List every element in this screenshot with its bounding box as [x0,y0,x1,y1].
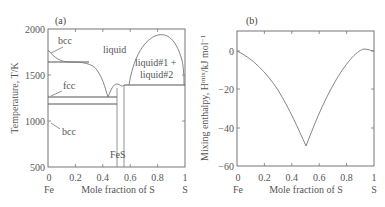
arrow-bcc-bottom [51,123,60,129]
x-tick-label: 0.4 [97,172,110,183]
x-tick-label: 1 [183,172,188,183]
y-tick-label: −60 [218,161,234,172]
x-tick-label: 0.2 [258,172,271,183]
y-tick-label: 1000 [25,116,45,127]
x-tick-label: 0 [236,172,241,183]
x-tick-label: 0.8 [340,172,353,183]
y-tick-label: −20 [218,84,234,95]
y-axis-label-b: Mixing enthalpy, Hmix/kJ mol−1 [199,34,210,161]
x-tick-label: 0.2 [69,172,82,183]
y-tick-label: 500 [30,162,45,173]
x-end-label-s: S [371,184,377,195]
x-ticks-b: 0 0.2 0.4 0.6 0.8 1 Fe S Mole fraction o… [233,31,377,195]
x-tick-label: 0 [47,172,52,183]
x-tick-label: 0.6 [313,172,326,183]
annotation-liquid1: liquid#1 + [135,57,177,68]
liquidus-fes [108,84,124,97]
annotation-liquid2: liquid#2 [140,69,173,80]
x-tick-label: 1 [372,172,377,183]
annotation-bcc-top: bcc [58,35,72,46]
annotation-liquid: liquid [103,44,126,55]
panel-a-label: (a) [55,15,66,27]
annotation-fes: FeS [110,149,126,160]
x-end-label-fe: Fe [233,184,244,195]
annotation-bcc-bottom: bcc [62,126,76,137]
arrow-fcc [51,91,62,96]
x-tick-label: 0.6 [124,172,137,183]
x-tick-label: 0.8 [151,172,164,183]
y-tick-label: 1500 [25,70,45,81]
panel-a: (a) 2000 1500 1000 500 0 0.2 0.4 0.6 [9,15,188,195]
x-tick-label: 0.4 [286,172,299,183]
x-end-label-fe: Fe [44,184,55,195]
x-axis-label-a: Mole fraction of S [81,184,155,195]
annotation-fcc: fcc [63,80,76,91]
y-tick-label: 0 [229,46,234,57]
mixing-enthalpy-curve [237,49,374,146]
liquidus-fe-side [48,50,108,97]
panel-b: (b) 0 −20 −40 −60 0 0.2 0.4 [199,15,377,195]
panel-b-label: (b) [246,15,258,27]
figure: (a) 2000 1500 1000 500 0 0.2 0.4 0.6 [0,0,385,207]
y-ticks-b: 0 −20 −40 −60 [218,46,374,172]
y-tick-label: −40 [218,123,234,134]
x-axis-label-b: Mole fraction of S [269,184,343,195]
arrow-bcc-top [51,47,63,53]
y-tick-label: 2000 [25,24,45,35]
x-end-label-s: S [182,184,188,195]
y-axis-label-a: Temperature, T/K [9,62,20,134]
